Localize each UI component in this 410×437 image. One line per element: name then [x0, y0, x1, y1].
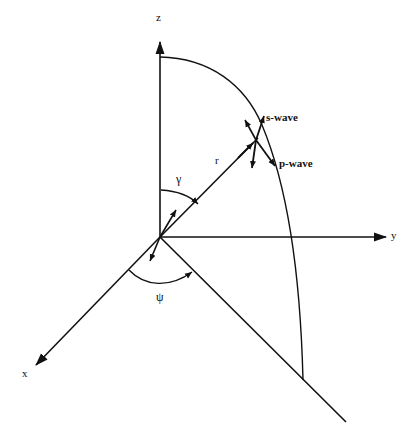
diagram-canvas: z y x r γ ψ s-wave p-wave — [0, 0, 410, 437]
wave-vectors — [238, 116, 275, 168]
y-axis-label: y — [391, 229, 397, 241]
meridian-arc — [160, 57, 303, 380]
psi-angle-arc — [129, 270, 192, 283]
psi-label: ψ — [156, 290, 164, 304]
x-axis-label: x — [22, 367, 28, 379]
z-axis-label: z — [156, 11, 161, 23]
radius-label: r — [215, 154, 219, 166]
origin-vectors — [150, 210, 176, 261]
gamma-angle-arc — [161, 190, 198, 204]
p-wave-label: p-wave — [279, 157, 313, 169]
x-axis — [36, 237, 160, 365]
azimuth-projection-line — [160, 237, 346, 422]
p-wave-arrow — [238, 143, 253, 158]
gamma-label: γ — [175, 172, 182, 186]
s-wave-label: s-wave — [266, 111, 298, 123]
